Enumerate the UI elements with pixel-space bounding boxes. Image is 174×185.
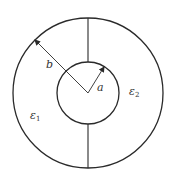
label-epsilon-1: ε1 <box>30 109 40 123</box>
label-a: a <box>97 81 104 94</box>
label-b: b <box>46 58 53 71</box>
label-epsilon-2: ε2 <box>129 85 139 99</box>
radius-b-arrow <box>35 40 88 93</box>
coaxial-diagram: b a ε1 ε2 <box>0 0 174 185</box>
